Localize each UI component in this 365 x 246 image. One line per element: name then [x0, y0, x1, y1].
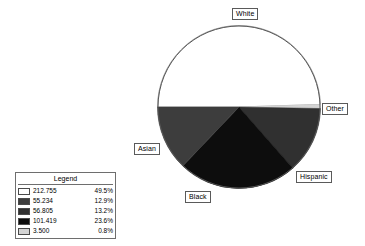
legend-row: 3.5000.8%	[18, 226, 113, 236]
legend-value: 56.805	[33, 206, 87, 216]
legend-percent: 13.2%	[87, 206, 113, 216]
legend-percent: 12.9%	[87, 196, 113, 206]
pie-slice-white	[158, 25, 321, 107]
pie-label-other: Other	[322, 103, 348, 115]
legend-swatch	[18, 208, 30, 215]
pie-label-white: White	[232, 8, 258, 20]
legend-value: 101.419	[33, 216, 87, 226]
pie-chart-graphic	[157, 21, 321, 193]
legend-swatch	[18, 188, 30, 195]
legend-percent: 23.6%	[87, 216, 113, 226]
legend-row: 55.23412.9%	[18, 196, 113, 206]
legend-swatch	[18, 218, 30, 225]
pie-label-hispanic: Hispanic	[296, 171, 332, 183]
legend-value: 55.234	[33, 196, 87, 206]
legend-row: 101.41923.6%	[18, 216, 113, 226]
pie-chart-figure: White Other Hispanic Black Asian Legend …	[0, 0, 365, 246]
pie-svg	[157, 21, 321, 193]
legend-row: 56.80513.2%	[18, 206, 113, 216]
legend-value: 212.755	[33, 186, 87, 196]
pie-label-asian: Asian	[134, 143, 160, 155]
legend-swatch	[18, 198, 30, 205]
legend-box: Legend 212.75549.5%55.23412.9%56.80513.2…	[15, 172, 116, 239]
legend-percent: 0.8%	[87, 226, 113, 236]
legend-row: 212.75549.5%	[18, 186, 113, 196]
legend-rows: 212.75549.5%55.23412.9%56.80513.2%101.41…	[18, 186, 113, 236]
legend-percent: 49.5%	[87, 186, 113, 196]
legend-title: Legend	[18, 174, 113, 185]
legend-swatch	[18, 228, 30, 235]
pie-label-black: Black	[185, 191, 211, 203]
legend-value: 3.500	[33, 226, 87, 236]
